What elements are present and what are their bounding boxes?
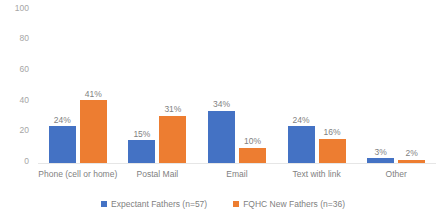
x-axis-category-label: Email: [197, 167, 277, 181]
y-axis-tick-0: 0: [24, 157, 29, 166]
bar-group: 3%2%: [356, 10, 436, 163]
bar[interactable]: [49, 126, 76, 163]
legend-label: Expectant Fathers (n=57): [111, 200, 207, 209]
legend-label: FQHC New Fathers (n=36): [243, 200, 345, 209]
bar-chart: 100 80 60 40 20 0 24%41%15%31%34%10%24%1…: [0, 0, 446, 219]
bar-group: 24%41%: [38, 10, 118, 163]
x-axis-category-label: Other: [356, 167, 436, 181]
bar[interactable]: [80, 100, 107, 163]
bar-value-label: 41%: [85, 90, 102, 99]
x-axis-category-label: Phone (cell or home): [38, 167, 118, 181]
bar-slot: 2%: [398, 10, 425, 163]
bar[interactable]: [319, 139, 346, 163]
bar[interactable]: [288, 126, 315, 163]
bar[interactable]: [239, 148, 266, 163]
x-axis-category-label: Postal Mail: [118, 167, 198, 181]
bar-slot: 41%: [80, 10, 107, 163]
bar-slot: 16%: [319, 10, 346, 163]
bar-group: 15%31%: [118, 10, 198, 163]
bar-value-label: 16%: [324, 128, 341, 137]
bar-value-label: 24%: [54, 116, 71, 125]
bar-value-label: 31%: [164, 105, 181, 114]
bar-value-label: 24%: [293, 116, 310, 125]
y-axis-tick-80: 80: [20, 34, 29, 43]
y-axis-tick-60: 60: [20, 65, 29, 74]
legend-swatch-icon: [101, 201, 107, 207]
bar-group: 24%16%: [277, 10, 357, 163]
bar-group: 34%10%: [197, 10, 277, 163]
legend-swatch-icon: [233, 201, 239, 207]
bar-value-label: 34%: [213, 100, 230, 109]
bar-slot: 24%: [288, 10, 315, 163]
y-axis-tick-100: 100: [15, 4, 29, 13]
x-axis-baseline: [38, 163, 436, 164]
bar-slot: 10%: [239, 10, 266, 163]
bar-value-label: 2%: [406, 149, 418, 158]
y-axis-tick-40: 40: [20, 96, 29, 105]
plot-area: 24%41%15%31%34%10%24%16%3%2%: [38, 10, 436, 163]
legend-item[interactable]: Expectant Fathers (n=57): [101, 200, 207, 209]
bar-value-label: 15%: [133, 130, 150, 139]
bar-value-label: 3%: [375, 148, 387, 157]
bar[interactable]: [398, 160, 425, 163]
bar[interactable]: [128, 140, 155, 163]
y-axis-tick-20: 20: [20, 126, 29, 135]
bar-slot: 15%: [128, 10, 155, 163]
legend-item[interactable]: FQHC New Fathers (n=36): [233, 200, 345, 209]
x-axis-labels: Phone (cell or home)Postal MailEmailText…: [38, 167, 436, 181]
bar-slot: 34%: [208, 10, 235, 163]
bar-slot: 3%: [367, 10, 394, 163]
bar[interactable]: [159, 116, 186, 163]
bar[interactable]: [367, 158, 394, 163]
x-axis-category-label: Text with link: [277, 167, 357, 181]
bar[interactable]: [208, 111, 235, 163]
bar-slot: 31%: [159, 10, 186, 163]
bar-slot: 24%: [49, 10, 76, 163]
chart-legend: Expectant Fathers (n=57)FQHC New Fathers…: [0, 196, 446, 212]
bar-value-label: 10%: [244, 137, 261, 146]
y-axis: 100 80 60 40 20 0: [0, 0, 34, 173]
